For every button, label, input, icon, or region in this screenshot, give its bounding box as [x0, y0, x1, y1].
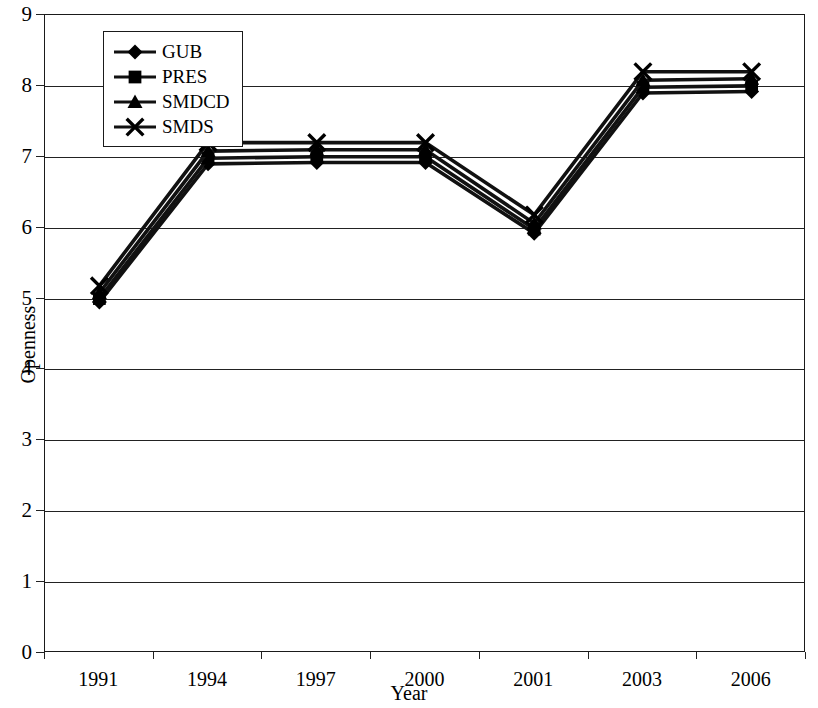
y-tick-label: 4	[22, 358, 33, 379]
legend-item-smdcd: SMDCD	[112, 89, 230, 114]
y-tick-mark	[36, 14, 44, 15]
y-tick-mark	[36, 439, 44, 440]
line-chart: Openness 0123456789 GUBPRESSMDCDSMDS 199…	[0, 0, 818, 708]
y-tick-mark	[36, 85, 44, 86]
x-axis-title: Year	[0, 682, 818, 705]
x-tick-mark	[44, 652, 45, 659]
plot-area: GUBPRESSMDCDSMDS	[44, 14, 805, 652]
y-tick-mark	[36, 156, 44, 157]
y-tick-mark	[36, 581, 44, 582]
legend: GUBPRESSMDCDSMDS	[103, 31, 243, 147]
diamond-marker-icon	[112, 41, 158, 63]
cross-marker-icon	[112, 116, 158, 138]
y-tick-label: 2	[22, 500, 33, 521]
x-tick-mark	[588, 652, 589, 659]
y-tick-label: 8	[22, 74, 33, 95]
x-tick-mark	[370, 652, 371, 659]
legend-item-smds: SMDS	[112, 114, 230, 139]
legend-item-label: PRES	[158, 67, 207, 86]
legend-item-label: SMDCD	[158, 92, 230, 111]
y-tick-mark	[36, 227, 44, 228]
y-axis: 0123456789	[0, 0, 44, 708]
y-tick-label: 9	[22, 4, 33, 25]
y-tick-mark	[36, 368, 44, 369]
x-tick-mark	[479, 652, 480, 659]
triangle-marker-icon	[112, 91, 158, 113]
y-tick-mark	[36, 510, 44, 511]
y-tick-label: 1	[22, 571, 33, 592]
y-tick-label: 5	[22, 287, 33, 308]
y-tick-mark	[36, 298, 44, 299]
legend-item-label: GUB	[158, 42, 202, 61]
x-tick-mark	[805, 652, 806, 659]
y-tick-label: 6	[22, 216, 33, 237]
legend-item-gub: GUB	[112, 39, 230, 64]
legend-item-label: SMDS	[158, 117, 214, 136]
x-tick-mark	[153, 652, 154, 659]
x-tick-mark	[261, 652, 262, 659]
y-tick-label: 7	[22, 145, 33, 166]
square-marker-icon	[112, 66, 158, 88]
y-tick-label: 3	[22, 429, 33, 450]
x-tick-mark	[696, 652, 697, 659]
legend-item-pres: PRES	[112, 64, 230, 89]
